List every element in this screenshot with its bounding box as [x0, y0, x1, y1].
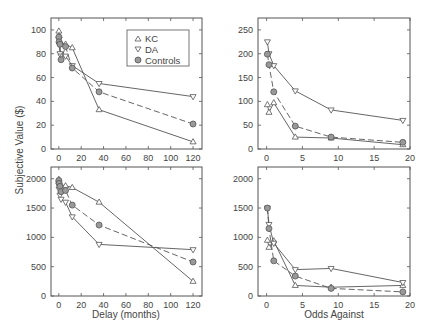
- y-tick-label: 0: [248, 144, 253, 154]
- triangle-up-marker-icon: [292, 282, 298, 287]
- series-line: [267, 42, 402, 121]
- series-da: [264, 40, 405, 124]
- y-tick-label: 100: [31, 25, 46, 35]
- circle-marker-icon: [264, 51, 270, 57]
- y-tick-label: 2000: [26, 174, 46, 184]
- legend-label-da: DA: [145, 44, 159, 55]
- y-tick-label: 20: [36, 120, 46, 130]
- x-tick-label: 10: [333, 153, 343, 163]
- triangle-up-marker-icon: [292, 134, 298, 139]
- y-tick-label: 250: [238, 25, 253, 35]
- x-tick-label: 80: [143, 153, 153, 163]
- x-tick-label: 20: [405, 300, 415, 310]
- circle-marker-icon: [58, 57, 64, 63]
- x-tick-label: 20: [76, 153, 86, 163]
- y-tick-label: 500: [31, 262, 46, 272]
- circle-marker-icon: [328, 134, 334, 140]
- triangle-down-marker-icon: [292, 89, 298, 94]
- circle-marker-icon: [328, 285, 334, 291]
- triangle-down-marker-icon: [292, 268, 298, 273]
- triangle-down-marker-icon: [63, 200, 69, 205]
- axes-frame: [258, 18, 410, 149]
- x-tick-label: 100: [163, 153, 178, 163]
- circle-marker-icon: [292, 273, 298, 279]
- circle-marker-icon: [266, 226, 272, 232]
- triangle-down-marker-icon: [190, 248, 196, 253]
- y-tick-label: 1000: [233, 232, 253, 242]
- triangle-down-marker-icon: [96, 242, 102, 247]
- x-tick-label: 100: [163, 300, 178, 310]
- triangle-down-marker-icon: [400, 281, 406, 286]
- circle-marker-icon: [190, 259, 196, 265]
- x-tick-label: 0: [56, 300, 61, 310]
- y-tick-label: 0: [41, 144, 46, 154]
- triangle-down-marker-icon: [400, 118, 406, 123]
- triangle-up-marker-icon: [69, 45, 75, 50]
- panel-bottom-right: 051015200500100015002000: [233, 167, 415, 310]
- triangle-down-marker-icon: [264, 40, 270, 45]
- legend-label-controls: Controls: [145, 55, 181, 66]
- y-tick-label: 0: [248, 291, 253, 301]
- circle-marker-icon: [69, 65, 75, 71]
- series-line: [267, 208, 402, 282]
- y-tick-label: 500: [238, 262, 253, 272]
- circle-marker-icon: [271, 89, 277, 95]
- panel-top-right: 05101520050100150200250: [238, 18, 415, 163]
- y-tick-label: 200: [238, 49, 253, 59]
- series-line: [267, 103, 402, 145]
- x-axis-label-odds: Odds Against: [304, 309, 364, 320]
- series-da: [264, 206, 405, 286]
- x-tick-label: 15: [369, 300, 379, 310]
- y-tick-label: 2000: [233, 174, 253, 184]
- circle-filled-icon: [135, 57, 141, 63]
- series-kc: [264, 237, 405, 289]
- y-tick-label: 40: [36, 96, 46, 106]
- triangle-up-marker-icon: [266, 109, 272, 114]
- legend-label-kc: KC: [145, 33, 158, 44]
- series-kc: [56, 176, 196, 283]
- circle-marker-icon: [400, 139, 406, 145]
- axes-frame: [258, 167, 410, 296]
- series-controls: [264, 51, 405, 145]
- y-tick-label: 0: [41, 291, 46, 301]
- triangle-up-marker-icon: [96, 199, 102, 204]
- triangle-up-marker-icon: [264, 101, 270, 106]
- circle-marker-icon: [96, 89, 102, 95]
- triangle-up-marker-icon: [96, 107, 102, 112]
- circle-marker-icon: [292, 123, 298, 129]
- x-tick-label: 0: [264, 153, 269, 163]
- series-line: [59, 185, 193, 250]
- circle-marker-icon: [264, 205, 270, 211]
- x-tick-label: 0: [264, 300, 269, 310]
- y-tick-label: 1000: [26, 232, 46, 242]
- series-line: [267, 208, 402, 292]
- x-tick-label: 20: [76, 300, 86, 310]
- figure: 0204060801001200204060801000510152005010…: [0, 0, 428, 333]
- circle-marker-icon: [63, 187, 69, 193]
- y-tick-label: 150: [238, 73, 253, 83]
- x-tick-label: 120: [186, 300, 201, 310]
- circle-marker-icon: [96, 222, 102, 228]
- series-da: [56, 183, 196, 253]
- panel-bottom-left: 0204060801001200500100015002000: [26, 167, 202, 310]
- y-tick-label: 1500: [26, 203, 46, 213]
- series-line: [267, 240, 402, 287]
- y-tick-label: 60: [36, 73, 46, 83]
- series-line: [59, 180, 193, 262]
- x-tick-label: 0: [56, 153, 61, 163]
- triangle-up-marker-icon: [190, 278, 196, 283]
- circle-marker-icon: [190, 121, 196, 127]
- x-tick-label: 120: [186, 153, 201, 163]
- circle-marker-icon: [266, 62, 272, 68]
- y-axis-label-top: Subjective Value ($): [14, 106, 25, 195]
- y-tick-label: 100: [238, 96, 253, 106]
- circle-marker-icon: [400, 289, 406, 295]
- x-tick-label: 20: [405, 153, 415, 163]
- triangle-up-marker-icon: [264, 237, 270, 242]
- x-tick-label: 60: [121, 153, 131, 163]
- series-kc: [264, 100, 405, 147]
- series-line: [267, 54, 402, 142]
- x-tick-label: 40: [99, 153, 109, 163]
- y-tick-label: 80: [36, 49, 46, 59]
- triangle-down-marker-icon: [190, 95, 196, 100]
